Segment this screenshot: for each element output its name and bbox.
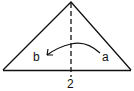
triangle-outline <box>3 2 131 70</box>
label-a: a <box>102 50 109 64</box>
step-number: 2 <box>67 77 74 91</box>
fold-diagram: b a 2 <box>0 0 134 91</box>
label-b: b <box>33 50 40 64</box>
fold-arrow-curve <box>47 43 100 55</box>
